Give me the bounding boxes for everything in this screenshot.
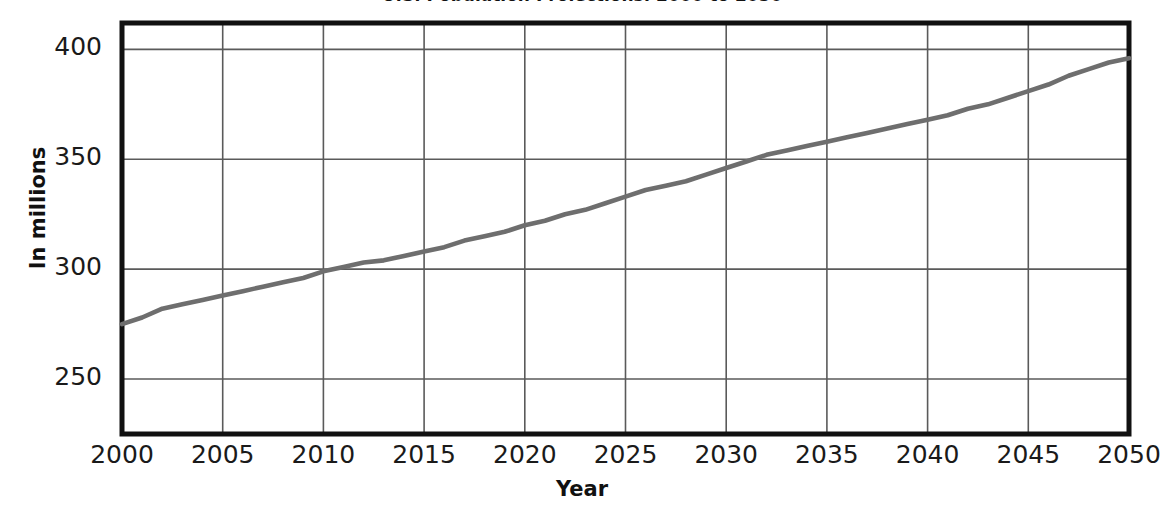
y-axis-tick-label: 400 <box>12 32 102 61</box>
chart-plot-area <box>0 0 1164 505</box>
y-axis-title: In millions <box>26 108 50 308</box>
y-axis-tick-label: 250 <box>12 362 102 391</box>
vertical-gridlines <box>223 23 1029 434</box>
x-axis-title: Year <box>0 477 1164 501</box>
x-axis-tick-label: 2050 <box>1069 440 1164 469</box>
line-chart: U.S. Population Projections, 2000 to 205… <box>0 0 1164 505</box>
